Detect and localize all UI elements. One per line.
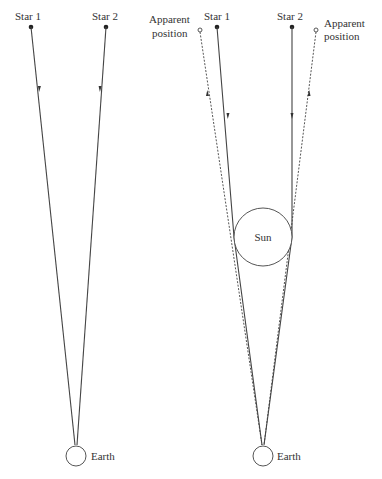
earth-label: Earth bbox=[91, 450, 115, 462]
earth-circle bbox=[66, 446, 86, 466]
earth-label: Earth bbox=[277, 450, 301, 462]
star1-light-ray bbox=[31, 27, 75, 445]
apparent-position-right-label-line2: position bbox=[324, 30, 360, 42]
apparent-position-right-label-line1: Apparent bbox=[324, 17, 365, 29]
arrow-down-icon bbox=[38, 86, 41, 92]
light-deflection-diagram: Star 1 Star 2 Earth Apparent position St… bbox=[0, 0, 382, 479]
earth-circle bbox=[253, 446, 273, 466]
star1-label: Star 1 bbox=[15, 10, 41, 22]
arrow-up-icon bbox=[308, 90, 311, 96]
star2-label: Star 2 bbox=[92, 10, 118, 22]
arrow-down-icon bbox=[291, 113, 294, 119]
star1-label: Star 1 bbox=[204, 10, 230, 22]
right-panel: Apparent position Star 1 Star 2 Apparent… bbox=[149, 10, 365, 466]
sun-label: Sun bbox=[254, 231, 272, 243]
left-panel: Star 1 Star 2 Earth bbox=[15, 10, 118, 466]
apparent-position-left-marker bbox=[198, 28, 202, 32]
arrow-down-icon bbox=[227, 113, 230, 119]
star2-light-ray bbox=[77, 27, 106, 445]
apparent-position-right-marker bbox=[314, 28, 318, 32]
apparent-position-left-label-line2: position bbox=[152, 27, 188, 39]
star2-label: Star 2 bbox=[277, 10, 303, 22]
apparent-position-left-label-line1: Apparent bbox=[149, 13, 190, 25]
